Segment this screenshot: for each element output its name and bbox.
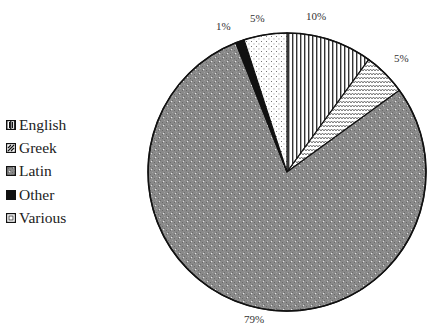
legend-label: Greek [19, 139, 57, 157]
legend-label: Latin [19, 162, 52, 180]
pie-slices [148, 33, 426, 311]
legend-item-various: Various [6, 206, 66, 229]
legend-item-other: Other [6, 183, 66, 206]
legend: English Greek Latin Other Various [6, 113, 66, 229]
various-swatch-icon [6, 213, 16, 223]
legend-label: English [19, 116, 66, 134]
legend-item-english: English [6, 113, 66, 136]
greek-swatch-icon [6, 143, 16, 153]
slice-label-latin: 79% [244, 313, 264, 325]
latin-swatch-icon [6, 166, 16, 176]
legend-item-latin: Latin [6, 160, 66, 183]
slice-label-greek: 5% [394, 52, 409, 64]
legend-label: Various [19, 209, 66, 227]
slice-label-other: 1% [216, 20, 231, 32]
english-swatch-icon [6, 120, 16, 130]
slice-label-various: 5% [250, 12, 265, 24]
legend-item-greek: Greek [6, 136, 66, 159]
slice-label-english: 10% [306, 10, 326, 22]
other-swatch-icon [6, 190, 16, 200]
legend-label: Other [19, 186, 54, 204]
